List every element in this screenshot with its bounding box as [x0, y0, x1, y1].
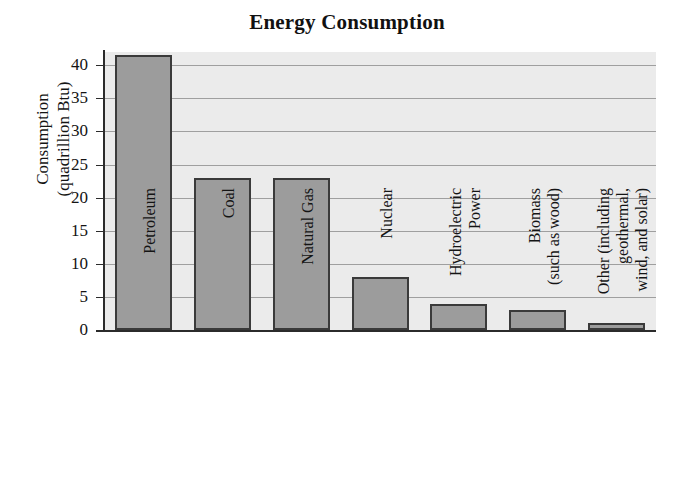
x-axis-label-line: Petroleum	[140, 188, 159, 338]
y-tick-mark	[96, 198, 105, 199]
y-tick-mark	[96, 297, 105, 298]
y-axis-line	[103, 50, 105, 332]
y-tick-mark	[96, 165, 105, 166]
x-axis-label-line: geothermal,	[613, 188, 632, 338]
y-tick-label: 0	[52, 321, 88, 338]
x-axis-label: Coal	[219, 188, 238, 338]
y-tick-mark	[96, 264, 105, 265]
x-axis-label-line: Power	[465, 188, 484, 338]
y-tick-label: 5	[52, 288, 88, 305]
chart-title: Energy Consumption	[0, 10, 694, 35]
x-axis-line	[96, 330, 656, 332]
x-axis-label-line: wind, and solar)	[632, 188, 651, 338]
x-axis-label: Natural Gas	[298, 188, 317, 338]
x-axis-label-line: Nuclear	[377, 188, 396, 338]
x-axis-label: Other (includinggeothermal,wind, and sol…	[594, 188, 651, 338]
x-axis-label-line: Hydroelectric	[446, 188, 465, 338]
x-axis-label: Nuclear	[377, 188, 396, 338]
x-axis-label: Biomass(such as wood)	[525, 188, 563, 338]
x-axis-label-line: (such as wood)	[544, 188, 563, 338]
y-axis-title: Consumption(quadrillion Btu)	[32, 24, 74, 254]
y-axis-title-line: (quadrillion Btu)	[53, 24, 74, 254]
x-axis-label-line: Natural Gas	[298, 188, 317, 338]
y-tick-mark	[96, 98, 105, 99]
y-axis-title-line: Consumption	[32, 24, 53, 254]
y-tick-mark	[96, 231, 105, 232]
x-axis-label-line: Coal	[219, 188, 238, 338]
x-axis-label: Petroleum	[140, 188, 159, 338]
y-tick-mark	[96, 131, 105, 132]
y-tick-mark	[96, 65, 105, 66]
x-axis-label-line: Other (including	[594, 188, 613, 338]
x-axis-label-line: Biomass	[525, 188, 544, 338]
x-axis-label: HydroelectricPower	[446, 188, 484, 338]
y-tick-mark	[96, 330, 105, 331]
y-tick-label: 10	[52, 255, 88, 272]
